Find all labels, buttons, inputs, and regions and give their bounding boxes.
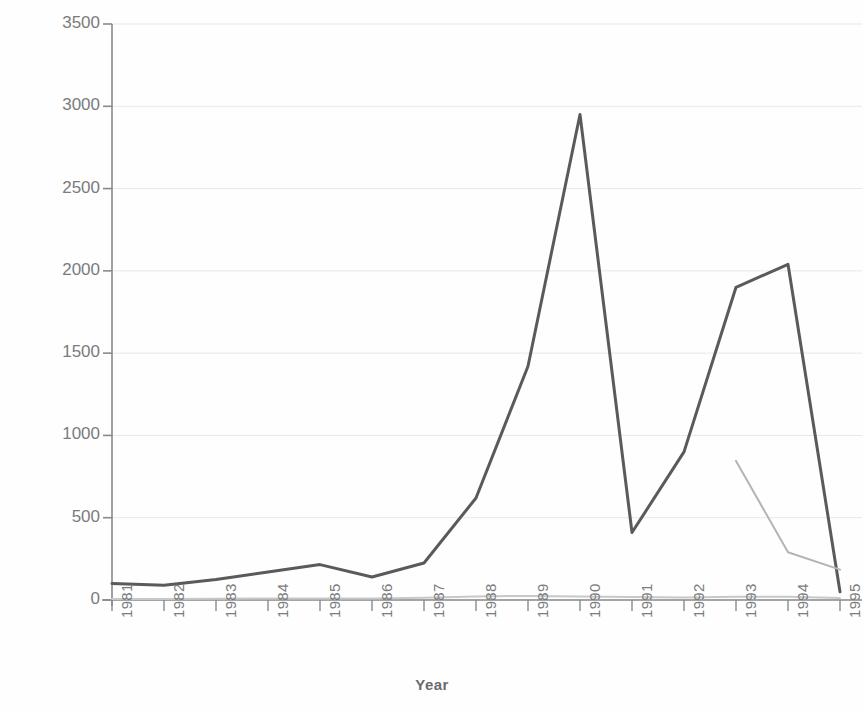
y-axis-ticks [103, 24, 112, 600]
x-axis-ticks [112, 600, 840, 611]
plot-area [0, 0, 864, 714]
data-line-series-2 [736, 461, 840, 570]
data-series-group [112, 115, 840, 600]
data-line-series-3 [112, 596, 840, 599]
chart-figure: Inflation Rate (%) 350030002500200015001… [0, 0, 864, 714]
axis-lines [102, 24, 862, 606]
gridlines [112, 24, 862, 600]
x-axis-title: Year [0, 676, 864, 693]
